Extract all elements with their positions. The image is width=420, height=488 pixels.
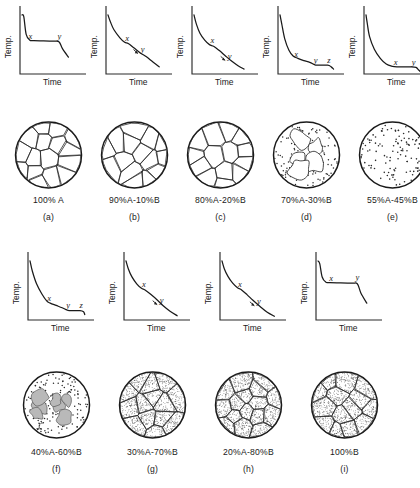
stipple-dot [48,405,50,407]
stipple-dot [341,407,342,408]
stipple-dot [122,406,123,407]
stipple-dot [70,391,72,393]
stipple-dot [256,384,257,385]
stipple-dot [245,384,246,385]
stipple-dot [361,404,362,405]
stipple-dot [349,429,350,430]
stipple-dot [168,382,169,383]
stipple-dot [355,416,356,417]
curve-marker-x: x [328,273,333,283]
stipple-dot [131,414,132,415]
stipple-dot [78,403,80,405]
stipple-dot [406,143,408,145]
stipple-dot [144,374,145,375]
stipple-dot [259,388,260,389]
stipple-dot [152,420,153,421]
stipple-dot [226,413,227,414]
stipple-dot [325,418,326,419]
stipple-dot [275,151,277,153]
stipple-dot [129,391,130,392]
stipple-dot [312,173,314,175]
stipple-dot [238,383,239,384]
stipple-dot [238,427,239,428]
stipple-dot [402,150,404,152]
stipple-dot [288,161,290,163]
stipple-dot [347,408,348,409]
panel-letter: (i) [340,464,348,474]
stipple-dot [177,391,178,392]
stipple-dot [273,416,274,417]
stipple-dot [354,424,355,425]
stipple-dot [339,375,340,376]
stipple-dot [246,422,247,423]
stipple-dot [242,383,243,384]
stipple-dot [165,420,166,421]
stipple-dot [166,377,167,378]
stipple-dot [239,395,240,396]
curve-marker-y: y [256,296,261,306]
stipple-dot [249,397,250,398]
stipple-dot [339,431,340,432]
stipple-dot [141,416,142,417]
stipple-dot [351,406,352,407]
stipple-dot [156,417,157,418]
stipple-dot [229,386,230,387]
stipple-dot [225,420,226,421]
stipple-dot [397,152,399,154]
stipple-dot [183,397,184,398]
stipple-dot [271,411,272,412]
stipple-dot [257,417,258,418]
stipple-dot [173,422,174,423]
stipple-dot [351,378,352,379]
stipple-dot [315,172,317,174]
stipple-dot [312,182,314,184]
stipple-dot [240,396,241,397]
stipple-dot [363,411,364,412]
stipple-dot [317,405,318,406]
stipple-dot [148,382,149,383]
stipple-dot [67,383,69,385]
stipple-dot [413,171,415,173]
stipple-dot [269,385,270,386]
stipple-dot [268,395,269,396]
stipple-dot [233,431,234,432]
grain-boundary [188,147,204,165]
stipple-dot [266,411,267,412]
stipple-dot [258,377,259,378]
stipple-dot [344,426,345,427]
stipple-dot [142,404,143,405]
stipple-dot [151,429,152,430]
stipple-dot [142,409,143,410]
stipple-dot [355,405,356,406]
stipple-dot [156,384,157,385]
stipple-dot [247,410,248,411]
stipple-dot [133,393,134,394]
stipple-dot [270,411,271,412]
stipple-dot [148,423,149,424]
stipple-dot [223,410,224,411]
stipple-dot [316,396,317,397]
stipple-dot [141,418,142,419]
stipple-dot [350,423,351,424]
stipple-dot [233,381,234,382]
stipple-dot [244,417,245,418]
stipple-dot [142,414,143,415]
stipple-dot [270,415,271,416]
stipple-dot [340,432,341,433]
stipple-dot [135,408,136,409]
stipple-dot [237,425,238,426]
stipple-dot [181,394,182,395]
stipple-dot [242,419,243,420]
cooling-curve [30,261,85,315]
stipple-dot [418,137,420,139]
stipple-dot [403,138,405,140]
stipple-dot [330,428,331,429]
stipple-dot [314,405,315,406]
stipple-dot [370,167,372,169]
stipple-dot [337,417,338,418]
stipple-dot [181,400,182,401]
stipple-dot [273,421,274,422]
stipple-dot [270,402,271,403]
stipple-dot [226,389,227,390]
stipple-dot [336,402,337,403]
